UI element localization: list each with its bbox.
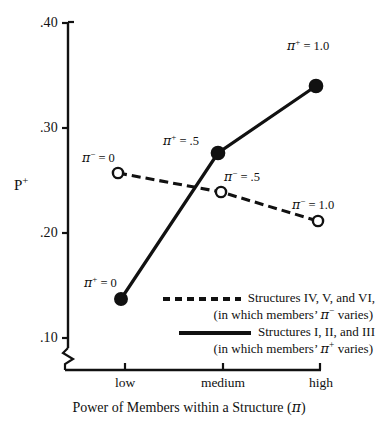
x-tick-label-low: low	[85, 376, 165, 390]
legend-note-pi-plus: (in which members’ π+ varies)	[214, 341, 373, 357]
data-point-open-low	[113, 168, 123, 178]
annotation-value: = 0	[97, 276, 117, 290]
solid-line-swatch-icon	[173, 327, 251, 337]
legend-label-structures-iv-v-vi: Structures IV, V, and VI,	[248, 290, 375, 306]
data-point-open-high	[313, 216, 323, 226]
x-axis-title-pi-symbol: π	[292, 399, 301, 415]
legend-note-pi-symbol: π	[321, 307, 330, 322]
legend-note-prefix: (in which members’	[214, 307, 321, 322]
legend-row-pi-minus-note: (in which members’ π− varies)	[132, 306, 375, 323]
y-axis-title: P+	[14, 178, 28, 193]
x-axis-title: Power of Members within a Structure (π)	[0, 400, 378, 415]
annotation-value: = .5	[176, 134, 199, 148]
chart-figure: .40 .30 .20 .10 P+ low medium high Power…	[0, 0, 378, 430]
axis-break-symbol	[63, 348, 73, 370]
legend-note-suffix: varies)	[334, 307, 373, 322]
legend-note-pi-minus: (in which members’ π− varies)	[214, 307, 373, 323]
annotation-pi-plus-10: π+ = 1.0	[287, 40, 329, 53]
y-tick-label-010: .10	[24, 331, 58, 345]
y-tick-label-030: .30	[24, 121, 58, 135]
annotation-pi-minus-10: π− = 1.0	[292, 199, 334, 212]
x-tick-label-medium: medium	[183, 376, 263, 390]
data-point-filled-high	[309, 79, 322, 92]
legend-note-suffix: varies)	[334, 341, 373, 356]
legend-row-structures-i-ii-iii: Structures I, II, and III	[132, 323, 375, 340]
legend-row-pi-plus-note: (in which members’ π+ varies)	[132, 340, 375, 357]
annotation-pi-symbol: π	[82, 150, 90, 165]
annotation-value: = 0	[95, 151, 115, 165]
plot-area	[0, 0, 378, 430]
annotation-pi-minus-0: π− = 0	[82, 152, 115, 165]
chart-legend: Structures IV, V, and VI, (in which memb…	[132, 289, 375, 357]
data-point-filled-low	[115, 293, 127, 305]
annotation-pi-plus-05: π+ = .5	[163, 135, 199, 148]
y-axis-title-superscript: +	[22, 174, 28, 186]
legend-label-structures-i-ii-iii: Structures I, II, and III	[258, 324, 375, 340]
data-point-filled-medium	[211, 146, 224, 159]
legend-note-pi-symbol: π	[321, 341, 330, 356]
annotation-pi-minus-05: π− = .5	[224, 171, 260, 184]
annotation-pi-plus-0: π+ = 0	[84, 277, 117, 290]
annotation-pi-symbol: π	[292, 197, 300, 212]
annotation-pi-symbol: π	[224, 169, 232, 184]
x-tick-label-high: high	[281, 376, 361, 390]
y-tick-label-020: .20	[24, 226, 58, 240]
annotation-pi-symbol: π	[84, 275, 92, 290]
legend-note-prefix: (in which members’	[214, 341, 321, 356]
annotation-pi-symbol: π	[287, 38, 295, 53]
annotation-value: = .5	[237, 170, 260, 184]
x-axis-title-prefix: Power of Members within a Structure (	[72, 400, 291, 415]
data-point-open-medium	[216, 187, 226, 197]
annotation-pi-symbol: π	[163, 133, 171, 148]
legend-row-structures-iv-v-vi: Structures IV, V, and VI,	[132, 289, 375, 306]
annotation-value: = 1.0	[305, 198, 334, 212]
y-tick-label-040: .40	[24, 16, 58, 30]
dashed-line-swatch-icon	[163, 293, 241, 303]
x-axis-title-suffix: )	[301, 400, 306, 415]
annotation-value: = 1.0	[300, 39, 329, 53]
